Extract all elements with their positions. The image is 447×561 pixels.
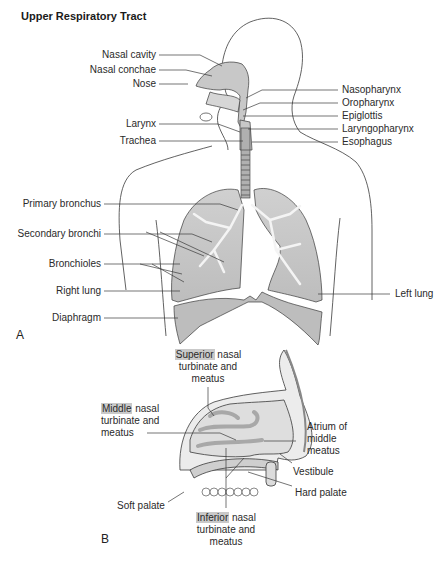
highlight-superior: Superior: [175, 349, 215, 360]
label-vestibule: Vestibule: [293, 466, 334, 478]
label-bronchioles: Bronchioles: [49, 258, 101, 270]
label-soft-palate: Soft palate: [117, 500, 165, 512]
label-larynx: Larynx: [126, 118, 156, 130]
label-hard-palate: Hard palate: [295, 487, 347, 499]
label-superior-turbinate: Superior nasal turbinate and meatus: [168, 349, 248, 385]
panel-letter-a: A: [16, 328, 24, 342]
label-middle-turbinate: Middle nasal turbinate and meatus: [101, 403, 159, 439]
highlight-inferior: Inferior: [196, 512, 229, 523]
label-trachea: Trachea: [120, 135, 156, 147]
label-nasal-cavity: Nasal cavity: [102, 49, 156, 61]
label-epiglottis: Epiglottis: [342, 110, 383, 122]
label-secondary-bronchi: Secondary bronchi: [18, 228, 101, 240]
trachea-shape: [241, 128, 250, 198]
label-nasopharynx: Nasopharynx: [342, 84, 401, 96]
label-diaphragm: Diaphragm: [52, 312, 101, 324]
label-nose: Nose: [133, 78, 156, 90]
panel-letter-b: B: [101, 532, 109, 546]
label-atrium-middle-meatus: Atrium of middle meatus: [307, 421, 347, 457]
label-esophagus: Esophagus: [342, 136, 392, 148]
lungs: [172, 188, 323, 345]
label-left-lung: Left lung: [395, 288, 433, 300]
label-inferior-turbinate: Inferior nasal turbinate and meatus: [186, 512, 266, 548]
label-laryngopharynx: Laryngopharynx: [342, 123, 414, 135]
label-oropharynx: Oropharynx: [342, 97, 394, 109]
label-nasal-conchae: Nasal conchae: [90, 64, 156, 76]
label-right-lung: Right lung: [56, 285, 101, 297]
label-primary-bronchus: Primary bronchus: [23, 198, 101, 210]
highlight-middle: Middle: [101, 403, 132, 414]
